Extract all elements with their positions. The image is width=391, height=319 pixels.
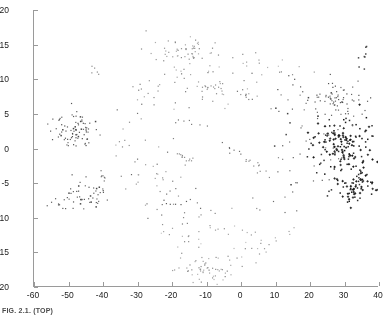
figure-caption: FIG. 2.1. (TOP) <box>2 307 53 319</box>
x-tick-label: -30 <box>130 290 142 300</box>
x-tick-label: -50 <box>61 290 73 300</box>
x-tick-label: 0 <box>238 290 243 300</box>
x-tick-label: -20 <box>165 290 177 300</box>
x-tick-label: 30 <box>339 290 348 300</box>
x-tick-label: 40 <box>373 290 382 300</box>
x-tick-label: -40 <box>96 290 108 300</box>
scatter-plot-figure: -20-15-10-505101520 -60-50-40-30-20-1001… <box>0 0 391 319</box>
x-tick-label: 10 <box>270 290 279 300</box>
x-tick-label: 20 <box>304 290 313 300</box>
x-tick-label: -60 <box>27 290 39 300</box>
x-tick-label: -10 <box>199 290 211 300</box>
x-axis-tick-labels: -60-50-40-30-20-10010203040 <box>0 0 391 319</box>
